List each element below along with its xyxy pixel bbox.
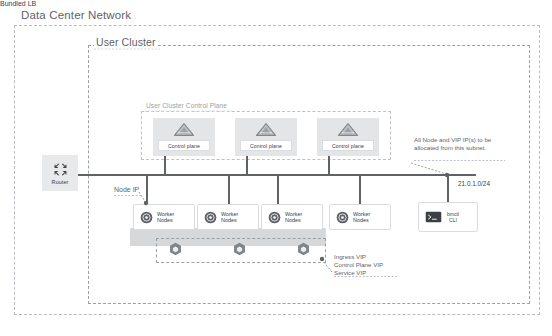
- worker-node-2[interactable]: Worker Nodes: [197, 204, 259, 230]
- disc-icon: [140, 211, 153, 224]
- disc-icon: [268, 211, 281, 224]
- control-plane-node-3[interactable]: Control plane: [317, 118, 379, 156]
- hexagon-lb-icon-2[interactable]: [233, 242, 246, 256]
- control-plane-name-box-3: Control plane: [322, 140, 374, 151]
- worker-node-label-1b: Nodes: [157, 217, 174, 223]
- bmctl-link: [447, 176, 449, 203]
- worker-node-4[interactable]: Worker Nodes: [329, 204, 391, 230]
- worker-link-2: [228, 176, 230, 204]
- terminal-icon: [425, 211, 442, 223]
- worker-link-1: [146, 176, 148, 204]
- service-vip-label: Service VIP: [334, 269, 383, 277]
- cidr-label: 21.0.1.0/24: [458, 180, 490, 188]
- router-node[interactable]: Router: [42, 155, 78, 191]
- subnet-annotation: All Node and VIP IP(s) to be allocated f…: [414, 136, 510, 152]
- triangle-icon: [173, 122, 195, 137]
- worker-node-1[interactable]: Worker Nodes: [133, 204, 195, 230]
- worker-node-label-3b: Nodes: [285, 217, 302, 223]
- control-plane-name-box-2: Control plane: [240, 140, 292, 151]
- worker-node-label-4b: Nodes: [353, 217, 370, 223]
- node-ip-annotation: Node IP: [114, 186, 139, 194]
- control-plane-name-box-1: Control plane: [158, 140, 210, 151]
- hexagon-lb-icon-3[interactable]: [297, 242, 310, 256]
- user-cluster-label: User Cluster: [94, 36, 158, 48]
- control-plane-label-1: Control plane: [168, 143, 200, 149]
- bundled-lb-label: Bundled LB: [0, 0, 552, 7]
- data-center-network-label: Data Center Network: [21, 9, 131, 21]
- worker-link-4: [359, 176, 361, 204]
- hexagon-lb-icon-1[interactable]: [169, 242, 182, 256]
- disc-icon: [204, 211, 217, 224]
- vip-annotation: Ingress VIP Control Plane VIP Service VI…: [334, 253, 383, 278]
- bmctl-cli-node[interactable]: bmctl CLI: [418, 202, 478, 232]
- triangle-icon: [255, 122, 277, 137]
- control-plane-label-2: Control plane: [250, 143, 282, 149]
- control-plane-label-3: Control plane: [332, 143, 364, 149]
- router-link: [78, 174, 90, 176]
- disc-icon: [336, 211, 349, 224]
- worker-node-label-2b: Nodes: [221, 217, 238, 223]
- control-plane-node-2[interactable]: Control plane: [235, 118, 297, 156]
- ingress-vip-label: Ingress VIP: [334, 253, 383, 261]
- worker-link-3: [277, 176, 279, 204]
- worker-node-3[interactable]: Worker Nodes: [261, 204, 323, 230]
- bmctl-cli-label-line2: CLI: [447, 217, 459, 223]
- control-plane-vip-label: Control Plane VIP: [334, 261, 383, 269]
- router-label: Router: [52, 179, 69, 185]
- four-arrows-icon: [52, 162, 69, 177]
- control-plane-node-1[interactable]: Control plane: [153, 118, 215, 156]
- user-cluster-control-plane-label: User Cluster Control Plane: [144, 102, 229, 109]
- triangle-icon: [337, 122, 359, 137]
